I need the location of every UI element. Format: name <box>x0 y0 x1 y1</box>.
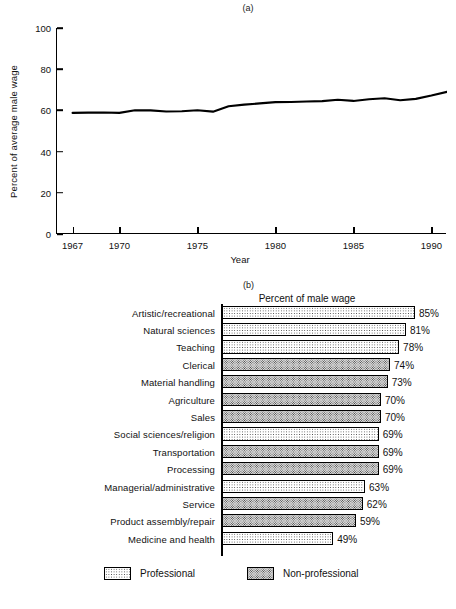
legend-item-nonprofessional: Non-professional <box>247 567 359 580</box>
y-axis-tick-label: 60 <box>40 105 51 116</box>
x-axis-tick-mark <box>353 227 355 233</box>
legend-label-professional: Professional <box>140 568 195 579</box>
bar-value-label: 49% <box>337 533 357 544</box>
bar-row: Product assembly/repair59% <box>0 513 456 530</box>
bar-value-label: 78% <box>403 342 423 353</box>
bar-row: Sales70% <box>0 408 456 425</box>
bar-value-label: 70% <box>385 412 405 423</box>
bar-row: Managerial/administrative63% <box>0 478 456 495</box>
bar-nonprofessional <box>222 393 381 406</box>
panel-b-caption: (b) <box>243 280 254 290</box>
bar-row: Medicine and health49% <box>0 530 456 547</box>
legend-label-nonprofessional: Non-professional <box>283 568 359 579</box>
bar-category-label: Artistic/recreational <box>132 307 215 318</box>
bar-row: Processing69% <box>0 461 456 478</box>
bar-row: Natural sciences81% <box>0 321 456 338</box>
y-axis-tick-mark <box>57 233 63 235</box>
legend-swatch-professional-icon <box>104 567 131 580</box>
y-axis-tick-mark <box>57 27 63 29</box>
bar-category-label: Managerial/administrative <box>104 481 215 492</box>
legend-swatch-nonprofessional-icon <box>247 567 274 580</box>
bar-value-label: 69% <box>383 446 403 457</box>
y-axis-tick-mark <box>57 110 63 112</box>
bar-row: Transportation69% <box>0 443 456 460</box>
bar-nonprofessional <box>222 462 379 475</box>
bar-chart-title: Percent of male wage <box>222 293 392 304</box>
x-axis-tick-label: 1990 <box>421 240 442 251</box>
bar-category-label: Teaching <box>176 342 215 353</box>
bar-category-label: Agriculture <box>168 394 215 405</box>
bar-category-label: Processing <box>167 464 215 475</box>
bar-nonprofessional <box>222 410 381 423</box>
x-axis-tick-label: 1970 <box>109 240 130 251</box>
bar-category-label: Medicine and health <box>128 533 215 544</box>
bar-rows-container: Artistic/recreational85%Natural sciences… <box>0 304 456 547</box>
bar-category-label: Sales <box>191 412 215 423</box>
bar-professional <box>222 532 333 545</box>
bar-row: Material handling73% <box>0 374 456 391</box>
y-axis-tick-label: 40 <box>40 146 51 157</box>
y-axis-tick-label: 20 <box>40 187 51 198</box>
wage-trend-line <box>57 28 447 234</box>
y-axis-tick-label: 100 <box>35 23 51 34</box>
bar-nonprofessional <box>222 375 388 388</box>
bar-value-label: 59% <box>360 516 380 527</box>
bar-nonprofessional <box>222 514 356 527</box>
bar-value-label: 69% <box>383 429 403 440</box>
bar-value-label: 85% <box>419 307 439 318</box>
line-plot-area: 020406080100196719701975198019851990 <box>56 28 446 234</box>
bar-category-label: Clerical <box>183 359 215 370</box>
bar-nonprofessional <box>222 358 390 371</box>
bar-professional <box>222 480 365 493</box>
x-axis-tick-mark <box>275 227 277 233</box>
bar-value-label: 73% <box>392 377 412 388</box>
x-axis-tick-label: 1980 <box>265 240 286 251</box>
bar-value-label: 70% <box>385 394 405 405</box>
y-axis-tick-label: 0 <box>46 229 51 240</box>
bar-value-label: 69% <box>383 464 403 475</box>
bar-professional <box>222 427 379 440</box>
bar-category-label: Material handling <box>141 377 215 388</box>
x-axis-tick-mark <box>197 227 199 233</box>
x-axis-label: Year <box>180 254 300 265</box>
bar-category-label: Service <box>183 498 215 509</box>
bar-row: Clerical74% <box>0 356 456 373</box>
bar-professional <box>222 323 406 336</box>
x-axis-tick-mark <box>119 227 121 233</box>
y-axis-tick-mark <box>57 151 63 153</box>
line-chart-panel: (a) Percent of average male wage Year 02… <box>0 0 456 275</box>
bar-nonprofessional <box>222 497 363 510</box>
bar-category-label: Transportation <box>153 446 215 457</box>
bar-category-label: Product assembly/repair <box>110 516 215 527</box>
x-axis-tick-label: 1967 <box>62 240 83 251</box>
bar-category-label: Natural sciences <box>143 325 215 336</box>
bar-value-label: 74% <box>394 359 414 370</box>
bar-row: Agriculture70% <box>0 391 456 408</box>
bar-professional <box>222 340 399 353</box>
panel-a-caption: (a) <box>0 3 456 13</box>
bar-category-label: Social sciences/religion <box>114 429 215 440</box>
x-axis-tick-label: 1985 <box>343 240 364 251</box>
bar-chart-panel: (b) Percent of male wage Artistic/recrea… <box>0 275 456 609</box>
bar-row: Social sciences/religion69% <box>0 426 456 443</box>
bar-professional <box>222 306 415 319</box>
chart-legend: Professional Non-professional <box>0 567 456 593</box>
y-axis-tick-mark <box>57 192 63 194</box>
y-axis-tick-mark <box>57 68 63 70</box>
x-axis-tick-mark <box>73 227 75 233</box>
bar-value-label: 63% <box>369 481 389 492</box>
x-axis-tick-mark <box>431 227 433 233</box>
bar-row: Teaching78% <box>0 339 456 356</box>
x-axis-tick-label: 1975 <box>187 240 208 251</box>
bar-row: Service62% <box>0 495 456 512</box>
bar-value-label: 62% <box>367 498 387 509</box>
y-axis-tick-label: 80 <box>40 64 51 75</box>
bar-value-label: 81% <box>410 325 430 336</box>
y-axis-label: Percent of average male wage <box>8 57 19 207</box>
bar-row: Artistic/recreational85% <box>0 304 456 321</box>
legend-item-professional: Professional <box>104 567 195 580</box>
bar-nonprofessional <box>222 445 379 458</box>
